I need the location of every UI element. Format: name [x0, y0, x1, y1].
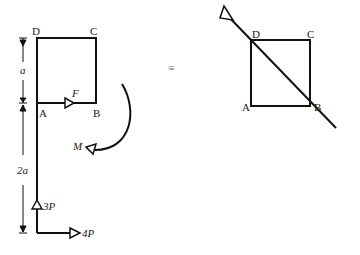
dimension-label-2a: 2a	[17, 164, 29, 176]
left-label-b: B	[93, 107, 100, 119]
left-label-c: C	[90, 25, 97, 37]
force-f-arrow-icon	[65, 98, 74, 108]
left-label-4p: 4P	[82, 227, 95, 239]
force-4p-arrow-icon	[70, 228, 80, 238]
right-label-a: A	[242, 101, 250, 113]
left-label-3p: 3P	[42, 200, 56, 212]
moment-arrow-icon	[86, 144, 96, 154]
left-label-f: F	[71, 87, 79, 99]
left-label-m: M	[72, 140, 83, 152]
equivalence-symbol: ≡	[168, 62, 174, 74]
left-label-a: A	[39, 107, 47, 119]
resultant-arrow-icon	[220, 6, 233, 20]
force-3p-arrow-icon	[32, 200, 42, 209]
right-label-b: B	[314, 101, 321, 113]
left-square	[37, 38, 96, 103]
statics-diagram: D C A B F M 3P 4P a 2a ≡ D C A B	[0, 0, 360, 255]
right-label-d: D	[252, 28, 260, 40]
left-figure	[19, 38, 130, 238]
right-label-c: C	[307, 28, 314, 40]
left-label-d: D	[32, 25, 40, 37]
dimension-label-a: a	[20, 64, 26, 76]
